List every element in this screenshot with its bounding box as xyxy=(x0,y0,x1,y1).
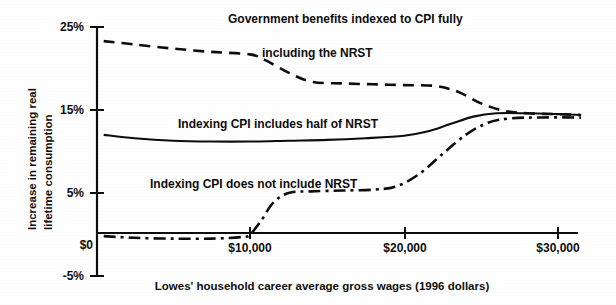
y-tick-label-15: 15% xyxy=(60,103,84,117)
y-axis-title-line1: Increase in remaining real xyxy=(26,88,38,230)
origin-label-zero: $0 xyxy=(80,238,94,252)
y-axis-title-line2: lifetime consumption xyxy=(42,114,54,230)
chart-plot-area: 25% 15% 5% -5% $0 $10,000 $20,000 $30,00… xyxy=(0,0,616,305)
x-tick-label-20000: $20,000 xyxy=(383,241,427,255)
y-tick-label-25: 25% xyxy=(60,20,84,34)
annotation-government-benefits-line2: including the NRST xyxy=(262,46,373,60)
y-tick-label-minus5: -5% xyxy=(63,269,85,283)
chart-figure: 25% 15% 5% -5% $0 $10,000 $20,000 $30,00… xyxy=(0,0,616,305)
annotation-government-benefits-line1: Government benefits indexed to CPI fully xyxy=(228,12,463,26)
x-tick-label-10000: $10,000 xyxy=(228,241,272,255)
x-tick-label-30000: $30,000 xyxy=(536,241,580,255)
x-axis-title: Lowes' household career average gross wa… xyxy=(155,280,490,292)
annotation-cpi-half-nrst: Indexing CPI includes half of NRST xyxy=(178,117,379,131)
y-tick-label-5: 5% xyxy=(67,186,85,200)
annotation-cpi-no-nrst: Indexing CPI does not include NRST xyxy=(150,177,358,191)
